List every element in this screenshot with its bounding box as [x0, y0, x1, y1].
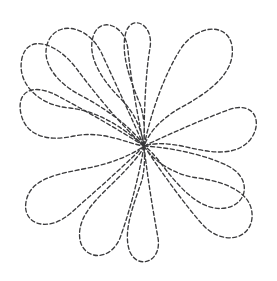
feather-pinwheel-illustration — [0, 0, 277, 281]
illustration-canvas — [0, 0, 277, 281]
